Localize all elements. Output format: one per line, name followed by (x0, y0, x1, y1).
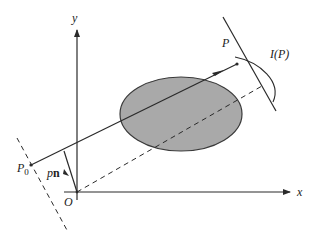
normal-label: pn (46, 166, 60, 180)
normal-label-p: p (46, 166, 53, 180)
point-p0-label: P0 (16, 161, 29, 177)
point-origin (76, 191, 79, 194)
projection-label: I(P) (269, 47, 289, 61)
point-p-label: P (221, 36, 230, 50)
projection-profile-arc (235, 57, 275, 102)
point-p0 (29, 163, 32, 166)
normal-label-n: n (53, 166, 60, 180)
point-p0-sub: 0 (24, 167, 29, 177)
normal-arrowhead (63, 169, 69, 176)
ellipse-object (120, 77, 242, 151)
projection-diagram: y x O P I(P) P0 pn (0, 0, 320, 245)
point-p (235, 62, 238, 65)
y-axis-label: y (71, 11, 78, 25)
dashed-line-through-p0 (17, 138, 68, 232)
origin-label: O (64, 195, 73, 209)
normal-vector-pn (64, 151, 77, 192)
x-axis-label: x (296, 185, 303, 199)
